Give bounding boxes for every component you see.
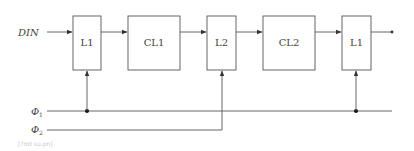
svg-text:1: 1 [39,111,43,118]
block-latch-2: L2 [207,16,236,70]
block-comb-1: CL1 [128,16,180,70]
din-label: DIN [17,27,40,38]
output-terminal-dot [391,31,394,34]
block-label: CL1 [144,37,165,48]
svg-text:Φ: Φ [31,124,39,135]
block-latch-1a: L1 [73,16,101,70]
svg-text:Φ: Φ [31,106,39,117]
block-label: CL2 [279,37,300,48]
figure-caption: [?rot su.pn] [18,140,53,148]
block-latch-1b: L1 [342,16,371,70]
latch-pipeline-diagram: DIN L1 CL1 L2 CL2 L1 Φ 1 Φ 2 [?rot s [0,0,414,151]
phi2-label: Φ 2 [31,124,43,136]
block-label: L1 [80,37,93,48]
phi2-to-l2-wire [47,71,222,130]
phi1-label: Φ 1 [31,106,43,118]
block-label: L1 [350,37,363,48]
block-comb-2: CL2 [263,16,315,70]
block-label: L2 [215,37,228,48]
svg-text:2: 2 [39,129,43,136]
